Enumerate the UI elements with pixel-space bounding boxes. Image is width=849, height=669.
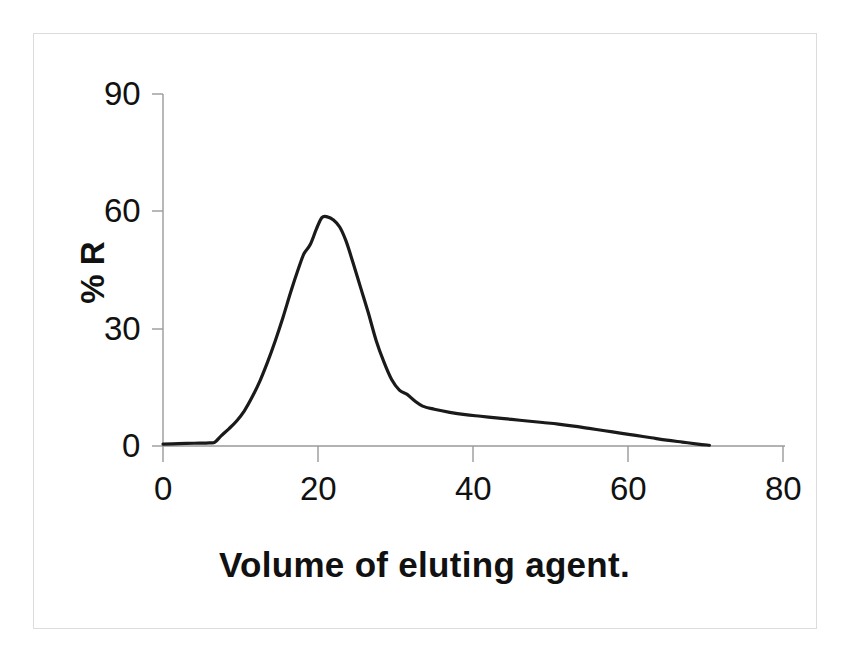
y-tick-label-0: 0 [122, 429, 140, 462]
x-axis-title: Volume of eluting agent. [0, 545, 849, 585]
x-tick-label-80: 80 [765, 472, 802, 505]
y-axis-title: % R [76, 223, 109, 323]
y-tick-label-30: 30 [104, 312, 141, 345]
y-axis-ticks [152, 94, 163, 446]
y-tick-label-60: 60 [104, 194, 141, 227]
chart-figure: 90 60 30 0 0 20 40 60 80 % R Volume of e… [0, 0, 849, 669]
y-tick-label-90: 90 [104, 77, 141, 110]
x-tick-label-40: 40 [455, 472, 492, 505]
x-tick-label-60: 60 [610, 472, 647, 505]
x-axis-ticks [163, 446, 783, 462]
x-tick-label-0: 0 [154, 472, 172, 505]
data-series-line [163, 216, 709, 445]
x-tick-label-20: 20 [300, 472, 337, 505]
